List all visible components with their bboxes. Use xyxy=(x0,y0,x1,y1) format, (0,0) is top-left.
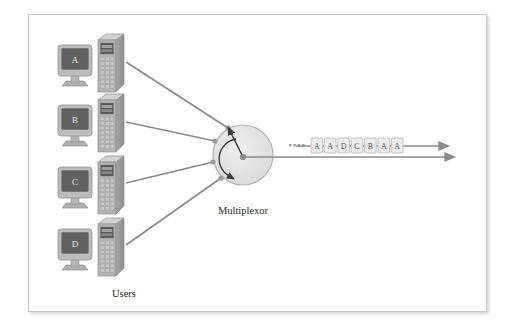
tower-vent-cell xyxy=(105,122,109,126)
tower-vent-cell xyxy=(105,62,109,66)
tower-vent-cell xyxy=(110,117,114,121)
terminal-d[interactable]: D xyxy=(58,218,124,276)
tower-vent-cell xyxy=(110,193,114,197)
terminal-b[interactable]: B xyxy=(58,94,124,152)
tower-vent-cell xyxy=(101,57,105,61)
tower-side xyxy=(116,156,124,214)
tower-vent-cell xyxy=(105,57,109,61)
tower-vent-cell xyxy=(101,250,105,254)
tower-vent-cell xyxy=(101,255,105,259)
tower-vent-cell xyxy=(110,80,114,84)
tower-drive-slot xyxy=(102,109,113,112)
tower-vent-cell xyxy=(101,75,105,79)
tower-vent-cell xyxy=(101,131,105,135)
tower-vent-cell xyxy=(105,197,109,201)
packet-label: A xyxy=(381,142,387,151)
tower-vent-cell xyxy=(110,140,114,144)
tower-drive-slot xyxy=(102,167,113,170)
tower-vent-cell xyxy=(101,269,105,273)
tower-vent-cell xyxy=(101,135,105,139)
tower-vent-cell xyxy=(105,71,109,75)
tower-drive-bay xyxy=(101,165,114,176)
tower-drive-slot xyxy=(102,49,113,52)
tower-vent-cell xyxy=(110,85,114,89)
multiplexor-label: Multiplexor xyxy=(218,205,269,216)
port-b-dot xyxy=(212,138,217,143)
tower-vent-cell xyxy=(105,246,109,250)
multiplexor-hub xyxy=(240,154,246,160)
tower-vent-cell xyxy=(101,66,105,70)
packet-label: A xyxy=(394,142,400,151)
tower-drive-bay xyxy=(101,227,114,238)
tower-drive-slot xyxy=(102,45,113,48)
multiplexor-unit[interactable]: Multiplexor xyxy=(210,125,273,216)
tower-vent-cell xyxy=(110,135,114,139)
packet-label: D xyxy=(341,142,347,151)
tower-vent-cell xyxy=(101,188,105,192)
tower-vent-cell xyxy=(105,140,109,144)
users-label: Users xyxy=(112,288,136,299)
tower-vent-cell xyxy=(110,269,114,273)
tower-side xyxy=(116,94,124,152)
tower-side xyxy=(116,218,124,276)
terminal-screen-label: A xyxy=(72,55,79,65)
tower-vent-cell xyxy=(105,202,109,206)
tower-vent-cell xyxy=(110,255,114,259)
tower-vent-cell xyxy=(105,135,109,139)
terminal-screen-label: D xyxy=(72,239,79,249)
tower-vent-cell xyxy=(101,122,105,126)
tower-drive-bay xyxy=(101,43,114,54)
tower-vent-cell xyxy=(105,193,109,197)
stream-leader-dot xyxy=(289,144,291,146)
tower-vent-cell xyxy=(105,188,109,192)
tower-vent-cell xyxy=(110,241,114,245)
terminal-c[interactable]: C xyxy=(58,156,124,214)
tower-vent-cell xyxy=(101,126,105,130)
tower-drive-bay xyxy=(101,103,114,114)
port-d-dot xyxy=(218,175,223,180)
port-c-dot xyxy=(210,159,215,164)
diagram-canvas: Multiplexor AADCBAA ABCD Users xyxy=(0,0,515,330)
tower-drive-slot xyxy=(102,229,113,232)
tower-vent-cell xyxy=(105,255,109,259)
tower-vent-cell xyxy=(110,184,114,188)
link-c xyxy=(126,162,213,183)
tower-vent-cell xyxy=(110,259,114,263)
terminal-screen-label: B xyxy=(72,115,78,125)
tower-vent-cell xyxy=(110,188,114,192)
stream-leader-dot xyxy=(298,144,300,146)
tower-vent-cell xyxy=(110,122,114,126)
tower-vent-cell xyxy=(101,117,105,121)
packet-label: A xyxy=(314,142,320,151)
tower-vent-cell xyxy=(101,207,105,211)
tower-vent-cell xyxy=(105,75,109,79)
tower-vent-cell xyxy=(110,66,114,70)
tower-vent-cell xyxy=(110,264,114,268)
tower-vent-cell xyxy=(105,241,109,245)
tower-vent-cell xyxy=(101,197,105,201)
tower-vent-cell xyxy=(110,62,114,66)
tower-vent-cell xyxy=(110,197,114,201)
multiplexor-diagram: Multiplexor AADCBAA ABCD Users xyxy=(0,0,515,330)
packet-label: C xyxy=(354,142,359,151)
tower-vent-cell xyxy=(105,259,109,263)
tower-vent-cell xyxy=(110,71,114,75)
tower-vent-cell xyxy=(101,71,105,75)
tower-vent-cell xyxy=(105,66,109,70)
packet-label: A xyxy=(327,142,333,151)
tower-vent-cell xyxy=(110,145,114,149)
link-b xyxy=(126,122,215,141)
tower-vent-cell xyxy=(110,250,114,254)
tower-vent-cell xyxy=(110,131,114,135)
tower-vent-cell xyxy=(105,250,109,254)
terminal-a[interactable]: A xyxy=(58,34,124,92)
tower-vent-cell xyxy=(101,259,105,263)
tower-vent-cell xyxy=(101,184,105,188)
tower-vent-cell xyxy=(101,264,105,268)
tower-side xyxy=(116,34,124,92)
tower-vent-cell xyxy=(110,246,114,250)
tower-vent-cell xyxy=(101,193,105,197)
packet-label: B xyxy=(368,142,373,151)
stream-leader-dot xyxy=(293,144,295,146)
tower-vent-cell xyxy=(105,126,109,130)
